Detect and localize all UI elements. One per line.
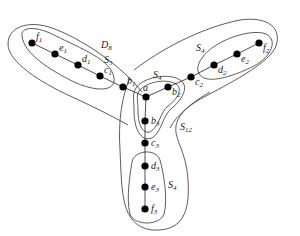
node-label-a: a bbox=[143, 82, 148, 93]
node-c3 bbox=[141, 139, 148, 146]
node-label-c2: c2 bbox=[195, 76, 203, 89]
node-f3 bbox=[141, 205, 148, 212]
node-label-b2: b2 bbox=[172, 86, 181, 99]
node-d2 bbox=[210, 61, 217, 68]
node-d1 bbox=[74, 61, 81, 68]
node-b1 bbox=[119, 83, 126, 90]
node-label-d2: d2 bbox=[218, 64, 227, 77]
node-c1 bbox=[96, 72, 103, 79]
node-c2 bbox=[187, 73, 194, 80]
set-boundary-s12 bbox=[119, 78, 210, 230]
node-e3 bbox=[141, 183, 148, 190]
node-f1 bbox=[28, 39, 35, 46]
node-d3 bbox=[141, 162, 148, 169]
set-label-s4-center: S4 bbox=[153, 69, 162, 82]
set-label-s12: S12 bbox=[180, 121, 193, 134]
edge-a-b3 bbox=[145, 97, 146, 121]
node-label-f2: f2 bbox=[263, 42, 270, 55]
node-b3 bbox=[141, 117, 148, 124]
node-e1 bbox=[51, 50, 58, 57]
node-label-c3: c3 bbox=[151, 137, 159, 150]
node-label-e3: e3 bbox=[151, 181, 159, 194]
node-label-e1: e1 bbox=[59, 42, 67, 55]
set-boundary-d8 bbox=[8, 25, 142, 125]
set-label-d8: D8 bbox=[100, 39, 112, 52]
node-b2 bbox=[164, 83, 171, 90]
node-label-d1: d1 bbox=[82, 53, 91, 66]
set-label-s4-bottom: S4 bbox=[168, 179, 177, 192]
node-label-e2: e2 bbox=[241, 53, 249, 66]
diagram-canvas: f1e1d1c1b1ab2c2d2e2f2b3c3d3e3f3D8S5S4S4S… bbox=[0, 0, 300, 236]
node-e2 bbox=[233, 50, 240, 57]
edge-f1-e1 bbox=[32, 43, 55, 54]
node-label-f3: f3 bbox=[151, 203, 158, 216]
node-f2 bbox=[255, 39, 262, 46]
edge-e1-d1 bbox=[55, 54, 78, 65]
node-label-f1: f1 bbox=[36, 31, 42, 44]
node-label-b3: b3 bbox=[151, 115, 160, 128]
set-label-s4-right: S4 bbox=[196, 42, 205, 55]
node-label-b1: b1 bbox=[127, 75, 136, 88]
edge-c1-b1 bbox=[100, 76, 123, 87]
edge-a-b2 bbox=[146, 87, 168, 97]
node-a bbox=[142, 93, 149, 100]
tree-diagram: f1e1d1c1b1ab2c2d2e2f2b3c3d3e3f3D8S5S4S4S… bbox=[0, 0, 300, 236]
edge-d1-c1 bbox=[78, 65, 100, 76]
node-label-d3: d3 bbox=[151, 160, 160, 173]
